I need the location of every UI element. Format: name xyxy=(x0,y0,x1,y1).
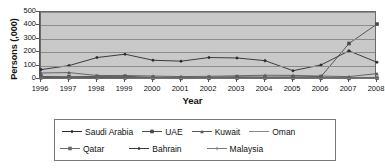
chart-plot-region: Persons (,000) 0100200300400500 19961997… xyxy=(0,0,385,112)
chart-legend: Saudi ArabiaUAEKuwaitOman QatarBahrainMa… xyxy=(54,119,336,161)
x-tick-mark xyxy=(180,79,181,82)
x-tick-label: 2006 xyxy=(307,84,333,93)
x-tick-label: 1999 xyxy=(111,84,137,93)
legend-marker-icon xyxy=(248,127,270,136)
series-line xyxy=(41,24,377,78)
x-tick-label: 2000 xyxy=(139,84,165,93)
x-tick-mark xyxy=(68,79,69,82)
chart-figure: Persons (,000) 0100200300400500 19961997… xyxy=(0,0,385,168)
series-line xyxy=(41,51,377,71)
x-tick-label: 1998 xyxy=(83,84,109,93)
y-tick-label: 400 xyxy=(14,20,36,27)
x-tick-label: 2008 xyxy=(363,84,385,93)
x-tick-label: 1996 xyxy=(27,84,53,93)
x-tick-mark xyxy=(264,79,265,82)
legend-marker-icon xyxy=(141,127,163,136)
x-tick-label: 2005 xyxy=(279,84,305,93)
x-tick-label: 2007 xyxy=(335,84,361,93)
x-tick-mark xyxy=(124,79,125,82)
legend-item-malaysia[interactable]: Malaysia xyxy=(206,144,264,154)
legend-marker-icon xyxy=(59,144,81,153)
y-tick-label: 300 xyxy=(14,34,36,41)
x-tick-mark xyxy=(292,79,293,82)
legend-label: Kuwait xyxy=(215,127,241,137)
legend-marker-icon xyxy=(61,127,83,136)
y-tick-mark xyxy=(36,11,39,12)
y-tick-mark xyxy=(36,24,39,25)
y-tick-label: 500 xyxy=(14,7,36,14)
legend-label: Qatar xyxy=(83,144,104,154)
y-tick-mark xyxy=(36,78,39,79)
legend-row: Saudi ArabiaUAEKuwaitOman xyxy=(59,123,333,140)
y-tick-mark xyxy=(36,65,39,66)
gridline xyxy=(41,25,375,26)
legend-item-uae[interactable]: UAE xyxy=(141,127,182,137)
x-axis-title: Year xyxy=(0,95,385,106)
y-tick-mark xyxy=(36,51,39,52)
legend-label: Malaysia xyxy=(230,144,264,154)
gridline xyxy=(41,66,375,67)
x-tick-mark xyxy=(320,79,321,82)
x-tick-mark xyxy=(40,79,41,82)
y-axis-tick-labels: 0100200300400500 xyxy=(14,0,36,80)
legend-item-bahrain[interactable]: Bahrain xyxy=(128,144,181,154)
plot-area xyxy=(40,11,376,78)
legend-item-saudi-arabia[interactable]: Saudi Arabia xyxy=(61,127,133,137)
x-tick-label: 1997 xyxy=(55,84,81,93)
y-tick-label: 200 xyxy=(14,47,36,54)
legend-marker-icon xyxy=(206,144,228,153)
series-layer xyxy=(41,12,377,79)
x-tick-mark xyxy=(152,79,153,82)
legend-item-oman[interactable]: Oman xyxy=(248,127,295,137)
x-tick-mark xyxy=(208,79,209,82)
gridline xyxy=(41,52,375,53)
x-tick-label: 2004 xyxy=(251,84,277,93)
y-tick-mark xyxy=(36,38,39,39)
legend-row: QatarBahrainMalaysia xyxy=(59,140,333,157)
x-tick-mark xyxy=(376,79,377,82)
y-tick-label: 100 xyxy=(14,61,36,68)
gridline xyxy=(41,39,375,40)
y-tick-label: 0 xyxy=(14,74,36,81)
x-tick-mark xyxy=(236,79,237,82)
x-tick-label: 2002 xyxy=(195,84,221,93)
legend-label: Oman xyxy=(272,127,295,137)
legend-label: Bahrain xyxy=(152,144,181,154)
gridline xyxy=(41,12,375,13)
x-tick-mark xyxy=(348,79,349,82)
legend-item-qatar[interactable]: Qatar xyxy=(59,144,104,154)
x-tick-label: 2001 xyxy=(167,84,193,93)
legend-label: Saudi Arabia xyxy=(85,127,133,137)
x-tick-mark xyxy=(96,79,97,82)
legend-item-kuwait[interactable]: Kuwait xyxy=(191,127,241,137)
legend-marker-icon xyxy=(128,144,150,153)
legend-marker-icon xyxy=(191,127,213,136)
x-tick-label: 2003 xyxy=(223,84,249,93)
legend-label: UAE xyxy=(165,127,182,137)
